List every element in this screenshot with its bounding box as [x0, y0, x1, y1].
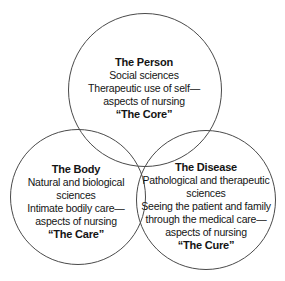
disease-line: sciences [131, 187, 281, 200]
person-line: Therapeutic use of self— [64, 82, 224, 95]
person-tagline: “The Core” [64, 108, 224, 121]
disease-line: Seeing the patient and family [131, 200, 281, 213]
person-line: Social sciences [64, 69, 224, 82]
disease-tagline: “The Cure” [131, 239, 281, 252]
disease-line: Pathological and therapeutic [131, 174, 281, 187]
disease-line: aspects of nursing [131, 226, 281, 239]
disease-line: through the medical care— [131, 213, 281, 226]
disease-text-block: The Disease Pathological and therapeutic… [131, 161, 281, 252]
person-text-block: The Person Social sciences Therapeutic u… [64, 56, 224, 121]
nursing-venn-diagram: The Person Social sciences Therapeutic u… [0, 0, 285, 281]
disease-title: The Disease [131, 161, 281, 174]
person-title: The Person [64, 56, 224, 69]
person-line: aspects of nursing [64, 95, 224, 108]
